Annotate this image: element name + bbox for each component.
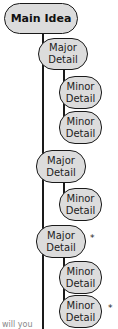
- main-idea-node: Main Idea: [4, 3, 78, 34]
- minor-detail-node: MinorDetail: [59, 295, 102, 328]
- node-label: Major: [46, 155, 75, 167]
- asterisk-marker: *: [108, 303, 113, 313]
- node-label: Minor: [66, 193, 95, 205]
- node-label: Detail: [46, 242, 75, 254]
- node-label: Detail: [46, 167, 75, 179]
- major-detail-node: MajorDetail: [38, 38, 88, 70]
- node-label: Detail: [66, 278, 95, 290]
- minor-detail-node: MinorDetail: [59, 261, 102, 294]
- node-label: Minor: [66, 81, 95, 93]
- node-label: Major: [48, 42, 77, 54]
- minor-detail-node: MinorDetail: [59, 188, 102, 221]
- major-detail-node: MajorDetail: [36, 150, 86, 183]
- node-label: Minor: [66, 266, 95, 278]
- node-label: Detail: [66, 93, 95, 105]
- node-label: Minor: [66, 300, 95, 312]
- cut-off-text: will you: [2, 320, 32, 329]
- minor-detail-node: MinorDetail: [59, 76, 102, 109]
- node-label: Detail: [66, 128, 95, 140]
- node-label: Detail: [66, 205, 95, 217]
- main-idea-label: Main Idea: [11, 13, 72, 25]
- node-label: Major: [46, 230, 75, 242]
- node-label: Detail: [66, 312, 95, 324]
- node-label: Detail: [48, 54, 77, 66]
- node-label: Minor: [66, 116, 95, 128]
- asterisk-marker: *: [90, 233, 95, 243]
- minor-detail-node: MinorDetail: [59, 111, 102, 144]
- major-detail-node: MajorDetail: [36, 225, 86, 258]
